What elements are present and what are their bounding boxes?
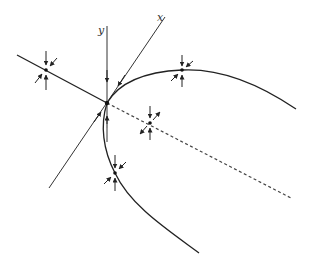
upper-curve: [107, 70, 296, 109]
x-axis-label: x: [157, 12, 163, 23]
origin-point: [105, 101, 109, 105]
fixed-point-left: [35, 51, 57, 90]
y-axis-label: y: [98, 25, 104, 36]
left-separatrix: [17, 55, 107, 103]
phase-diagram: y x: [0, 0, 312, 275]
dashed-line: [107, 103, 291, 198]
fixed-point-dashed: [140, 106, 160, 140]
